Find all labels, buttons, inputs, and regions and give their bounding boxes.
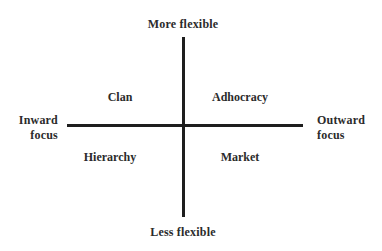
quadrant-diagram: More flexible Less flexible Inward focus… xyxy=(0,0,382,251)
vertical-axis-flexibility xyxy=(182,37,185,217)
axis-label-less-flexible: Less flexible xyxy=(0,225,366,240)
axis-label-more-flexible: More flexible xyxy=(0,17,366,32)
quadrant-clan: Clan xyxy=(70,90,170,105)
axis-label-inward-line1: Inward xyxy=(8,113,58,128)
axis-label-inward-line2: focus xyxy=(8,128,58,143)
quadrant-hierarchy: Hierarchy xyxy=(60,150,160,165)
axis-label-outward-focus: Outward focus xyxy=(317,113,365,143)
axis-label-inward-focus: Inward focus xyxy=(8,113,58,143)
axis-label-outward-line2: focus xyxy=(317,128,365,143)
axis-label-outward-line1: Outward xyxy=(317,113,365,128)
quadrant-adhocracy: Adhocracy xyxy=(190,90,290,105)
horizontal-axis-focus xyxy=(67,124,303,127)
quadrant-market: Market xyxy=(190,150,290,165)
